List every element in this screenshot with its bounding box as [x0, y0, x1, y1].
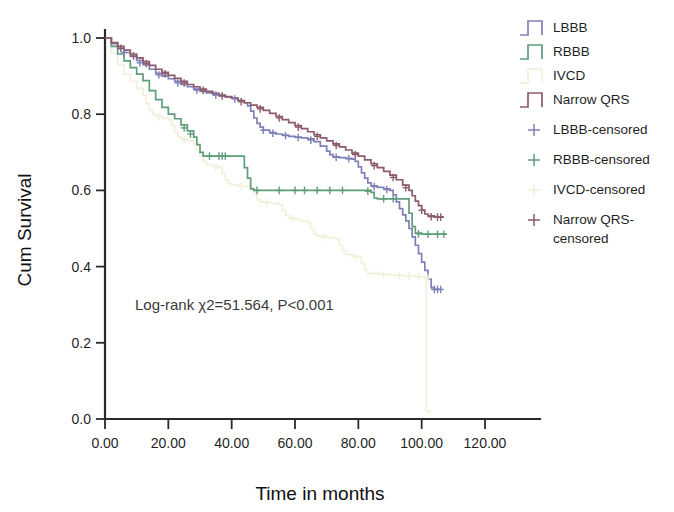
legend-item: RBBB-censored	[528, 152, 650, 167]
y-axis-ticks: 0.00.20.40.60.81.0	[72, 30, 105, 427]
censor-tick-narrow-qrs	[437, 213, 443, 221]
censor-tick-lbbb	[308, 136, 314, 144]
censor-tick-lbbb	[333, 153, 339, 161]
x-tick-label: 120.00	[464, 435, 507, 451]
logrank-annotation: Log-rank χ2=51.564, P<0.001	[135, 296, 334, 313]
censor-tick-lbbb	[175, 79, 181, 87]
legend-item: Narrow QRS-censored	[528, 212, 634, 246]
legend-item: IVCD-censored	[528, 182, 645, 197]
censor-tick-rbbb	[206, 152, 212, 160]
legend-label: RBBB	[553, 44, 590, 59]
legend-item: LBBB	[520, 20, 588, 35]
kaplan-meier-figure: 0.00.20.40.60.81.0 0.0020.0040.0060.0080…	[0, 0, 674, 512]
censor-tick-ivcd	[181, 136, 187, 144]
legend-label: LBBB	[553, 20, 588, 35]
x-tick-label: 60.00	[277, 435, 312, 451]
y-tick-label: 1.0	[72, 30, 92, 46]
censor-tick-ivcd	[352, 253, 358, 261]
legend-label: LBBB-censored	[553, 122, 648, 137]
x-axis-title: Time in months	[255, 483, 384, 504]
y-axis-title: Cum Survival	[14, 174, 35, 287]
legend-plus-swatch	[528, 184, 540, 196]
y-tick-label: 0.0	[72, 411, 92, 427]
censor-tick-lbbb	[384, 186, 390, 194]
y-tick-label: 0.2	[72, 335, 92, 351]
censor-tick-narrow-qrs	[257, 105, 263, 113]
censor-tick-rbbb	[301, 187, 307, 195]
censor-tick-narrow-qrs	[219, 92, 225, 100]
censor-tick-rbbb	[425, 230, 431, 238]
legend-plus-swatch	[528, 154, 540, 166]
censor-tick-ivcd	[380, 271, 386, 279]
censor-tick-narrow-qrs	[200, 86, 206, 94]
censor-tick-rbbb	[254, 187, 260, 195]
y-tick-label: 0.4	[72, 259, 92, 275]
censor-tick-rbbb	[380, 195, 386, 203]
survival-chart-svg: 0.00.20.40.60.81.0 0.0020.0040.0060.0080…	[0, 0, 674, 512]
legend-item: Narrow QRS	[520, 92, 630, 107]
censor-tick-rbbb	[441, 230, 447, 238]
censor-tick-narrow-qrs	[314, 132, 320, 140]
censor-tick-rbbb	[339, 187, 345, 195]
survival-curves-layer	[105, 38, 447, 411]
censor-tick-ivcd	[289, 215, 295, 223]
survival-curve-lbbb	[105, 38, 441, 289]
censor-tick-rbbb	[222, 152, 228, 160]
x-tick-label: 0.00	[91, 435, 118, 451]
legend-item: IVCD	[520, 68, 586, 83]
x-tick-label: 100.00	[400, 435, 443, 451]
censor-tick-rbbb	[365, 187, 371, 195]
x-axis-ticks: 0.0020.0040.0060.0080.00100.00120.00	[91, 419, 506, 451]
censor-tick-lbbb	[437, 286, 443, 294]
x-tick-label: 20.00	[151, 435, 186, 451]
legend-label: Narrow QRS	[553, 92, 630, 107]
censor-marks-layer	[118, 44, 447, 293]
survival-curve-ivcd	[105, 38, 431, 411]
censor-tick-narrow-qrs	[295, 123, 301, 131]
axis-lines	[105, 30, 540, 419]
censor-tick-rbbb	[434, 230, 440, 238]
censor-tick-lbbb	[156, 71, 162, 79]
legend-label: IVCD	[553, 68, 586, 83]
legend-item: RBBB	[520, 44, 590, 59]
legend-label: RBBB-censored	[553, 152, 650, 167]
censor-tick-narrow-qrs	[418, 206, 424, 214]
censor-tick-lbbb	[295, 134, 301, 142]
x-tick-label: 80.00	[341, 435, 376, 451]
axes-group	[105, 30, 540, 419]
censor-tick-rbbb	[415, 230, 421, 238]
censor-tick-ivcd	[263, 199, 269, 207]
censor-tick-narrow-qrs	[428, 213, 434, 221]
censor-tick-ivcd	[320, 233, 326, 241]
censor-tick-rbbb	[276, 187, 282, 195]
censor-tick-ivcd	[406, 272, 412, 280]
censor-tick-ivcd	[396, 272, 402, 280]
censor-tick-ivcd	[213, 163, 219, 171]
censor-tick-ivcd	[415, 273, 421, 281]
y-tick-label: 0.8	[72, 106, 92, 122]
legend-step-swatch	[520, 69, 542, 83]
censor-tick-rbbb	[390, 195, 396, 203]
legend-label: IVCD-censored	[553, 182, 645, 197]
censor-tick-lbbb	[270, 129, 276, 137]
censor-tick-rbbb	[327, 187, 333, 195]
y-tick-label: 0.6	[72, 182, 92, 198]
censor-tick-ivcd	[238, 182, 244, 190]
censor-tick-ivcd	[156, 113, 162, 121]
legend-step-swatch	[520, 93, 542, 107]
censor-tick-lbbb	[282, 132, 288, 140]
legend-step-swatch	[520, 45, 542, 59]
legend-step-swatch	[520, 21, 542, 35]
legend-item: LBBB-censored	[528, 122, 648, 137]
x-tick-label: 40.00	[214, 435, 249, 451]
legend: LBBBRBBBIVCDNarrow QRSLBBB-censoredRBBB-…	[520, 20, 650, 246]
censor-tick-lbbb	[232, 95, 238, 103]
censor-tick-lbbb	[371, 183, 377, 191]
legend-plus-swatch	[528, 124, 540, 136]
censor-tick-lbbb	[346, 155, 352, 163]
censor-tick-rbbb	[314, 187, 320, 195]
censor-tick-narrow-qrs	[276, 114, 282, 122]
censor-tick-rbbb	[292, 187, 298, 195]
legend-label-continued: censored	[553, 231, 609, 246]
censor-tick-narrow-qrs	[238, 98, 244, 106]
